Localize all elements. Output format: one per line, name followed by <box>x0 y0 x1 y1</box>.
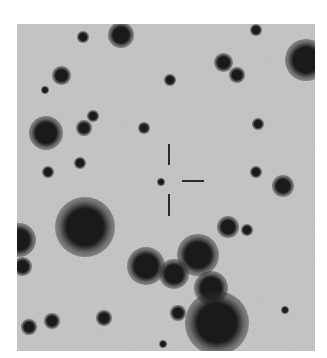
star <box>250 166 261 177</box>
star <box>138 122 149 133</box>
star <box>87 110 98 121</box>
star <box>229 67 244 82</box>
star <box>21 319 36 334</box>
star <box>52 66 71 85</box>
star <box>44 313 59 328</box>
star <box>177 234 219 276</box>
star <box>159 340 167 348</box>
star <box>42 166 53 177</box>
star <box>17 257 32 276</box>
star <box>41 86 49 94</box>
crosshair-top-tick <box>168 144 170 165</box>
star <box>250 24 261 35</box>
star <box>157 178 165 186</box>
star <box>214 53 233 72</box>
star <box>164 74 175 85</box>
star <box>96 310 111 325</box>
star <box>76 120 91 135</box>
star <box>74 157 85 168</box>
star <box>185 291 250 351</box>
star <box>241 224 252 235</box>
star <box>29 116 63 150</box>
star <box>252 118 263 129</box>
star-field-image <box>17 24 315 351</box>
crosshair-bottom-tick <box>168 194 170 216</box>
star <box>281 306 289 314</box>
star <box>77 31 88 42</box>
crosshair-right-tick <box>182 180 204 182</box>
star <box>170 305 185 320</box>
